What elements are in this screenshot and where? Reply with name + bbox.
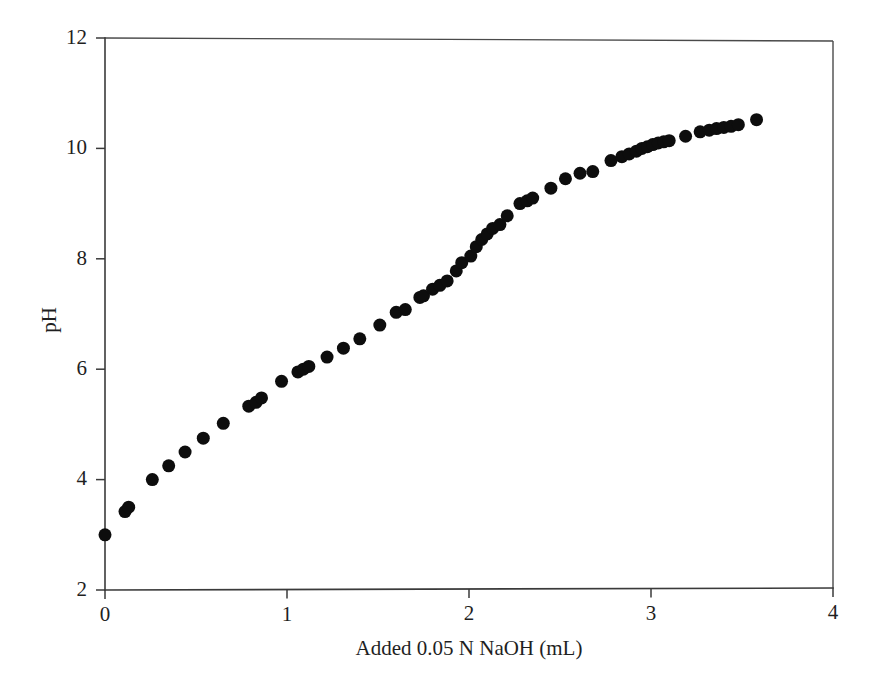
data-point: [586, 165, 599, 178]
y-tick-label: 10: [66, 135, 87, 159]
data-point: [574, 167, 587, 180]
data-point: [526, 192, 539, 205]
figure-container: 24681012 01234 Added 0.05 N NaOH (mL) pH: [0, 0, 872, 681]
y-axis-ticks: 24681012: [66, 25, 105, 601]
plot-frame: [105, 38, 833, 590]
x-axis-ticks: 01234: [100, 588, 839, 626]
data-point: [399, 303, 412, 316]
data-point: [197, 432, 210, 445]
x-axis-title: Added 0.05 N NaOH (mL): [356, 636, 583, 660]
y-tick-label: 8: [77, 246, 88, 270]
y-tick-label: 2: [77, 577, 88, 601]
data-point: [255, 391, 268, 404]
x-tick-label: 3: [646, 601, 657, 625]
y-axis-title: pH: [37, 307, 61, 333]
data-point: [501, 209, 514, 222]
data-point: [217, 417, 230, 430]
data-point: [544, 182, 557, 195]
data-point: [663, 134, 676, 147]
data-point: [750, 113, 763, 126]
y-tick-label: 12: [66, 25, 87, 49]
y-tick-label: 6: [77, 356, 88, 380]
y-tick-label: 4: [77, 466, 88, 490]
x-tick-label: 1: [282, 602, 293, 626]
frame-top: [105, 38, 833, 41]
data-point: [122, 501, 135, 514]
data-points-layer: [99, 113, 764, 541]
x-tick-label: 2: [464, 601, 475, 625]
x-tick-label: 4: [828, 600, 839, 624]
data-point: [337, 342, 350, 355]
data-point: [679, 130, 692, 143]
data-point: [441, 274, 454, 287]
data-point: [146, 473, 159, 486]
data-point: [302, 360, 315, 373]
data-point: [275, 375, 288, 388]
data-point: [559, 172, 572, 185]
data-point: [99, 528, 112, 541]
titration-chart: 24681012 01234 Added 0.05 N NaOH (mL) pH: [0, 0, 872, 681]
data-point: [321, 351, 334, 364]
data-point: [162, 459, 175, 472]
data-point: [373, 319, 386, 332]
data-point: [179, 446, 192, 459]
data-point: [732, 118, 745, 131]
x-tick-label: 0: [100, 602, 111, 626]
data-point: [353, 332, 366, 345]
